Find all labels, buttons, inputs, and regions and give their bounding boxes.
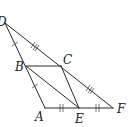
label-D: D <box>0 15 7 29</box>
ticks-DC <box>31 42 39 51</box>
segment-CE <box>61 66 79 108</box>
label-E: E <box>74 112 84 126</box>
label-B: B <box>14 60 24 74</box>
geometry-diagram: D C B A E F <box>0 0 132 127</box>
label-F: F <box>116 102 126 116</box>
label-C: C <box>63 53 72 67</box>
label-A: A <box>34 110 44 124</box>
